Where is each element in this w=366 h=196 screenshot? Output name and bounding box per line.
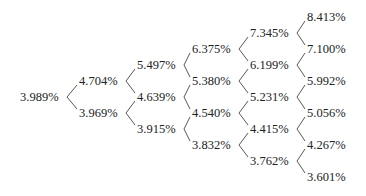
rate-node: 3.969% — [79, 106, 118, 120]
rate-node: 3.762% — [250, 154, 289, 168]
branch-line — [184, 97, 190, 109]
branch-line — [126, 113, 135, 125]
rate-node: 5.231% — [250, 90, 289, 104]
branch-line — [297, 97, 305, 109]
branch-line — [297, 129, 305, 141]
branch-line — [297, 21, 305, 33]
branch-line — [184, 85, 190, 97]
branch-line — [297, 85, 305, 97]
branch-line — [184, 65, 190, 77]
branch-line — [239, 49, 248, 61]
rate-node: 5.497% — [137, 58, 176, 72]
rate-node: 4.540% — [192, 106, 231, 120]
branch-line — [239, 101, 248, 113]
rate-node: 6.199% — [250, 58, 289, 72]
branch-line — [126, 69, 135, 81]
branch-line — [184, 117, 190, 129]
rate-node: 7.100% — [307, 42, 346, 56]
branch-line — [239, 145, 248, 157]
rate-node: 5.992% — [307, 74, 346, 88]
branch-line — [67, 97, 77, 109]
branch-line — [239, 113, 248, 125]
branch-line — [297, 33, 305, 45]
branch-line — [297, 161, 305, 173]
branch-line — [297, 149, 305, 161]
branch-line — [239, 69, 248, 81]
binomial-rate-tree: 3.989%4.704%3.969%5.497%4.639%3.915%6.37… — [0, 0, 366, 196]
rate-node: 4.415% — [250, 122, 289, 136]
rate-node: 4.639% — [137, 90, 176, 104]
rate-node: 4.704% — [79, 74, 118, 88]
rate-node: 5.056% — [307, 106, 346, 120]
rate-node: 8.413% — [307, 10, 346, 24]
branch-line — [239, 37, 248, 49]
rate-node: 3.832% — [192, 138, 231, 152]
branch-line — [184, 129, 190, 141]
rate-node: 6.375% — [192, 42, 231, 56]
rate-node: 3.989% — [20, 90, 59, 104]
branch-line — [297, 65, 305, 77]
branch-line — [239, 133, 248, 145]
rate-node: 7.345% — [250, 26, 289, 40]
branch-line — [126, 81, 135, 93]
rate-node: 3.601% — [307, 170, 346, 184]
branch-line — [297, 117, 305, 129]
rate-node: 5.380% — [192, 74, 231, 88]
branch-line — [239, 81, 248, 93]
branch-line — [297, 53, 305, 65]
rate-node: 3.915% — [137, 122, 176, 136]
rate-node: 4.267% — [307, 138, 346, 152]
branch-line — [184, 53, 190, 65]
branch-line — [67, 85, 77, 97]
branch-line — [126, 101, 135, 113]
